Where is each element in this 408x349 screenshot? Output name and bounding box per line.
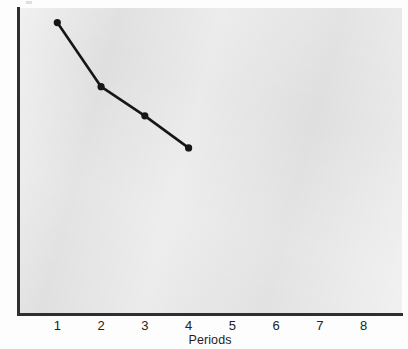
scan-artifact [26, 1, 32, 4]
figure-container: 12345678 Periods [0, 0, 408, 349]
x-tick-label-8: 8 [349, 318, 379, 334]
y-axis-spine [17, 7, 20, 316]
x-tick-label-1: 1 [42, 318, 72, 334]
x-tick-label-6: 6 [261, 318, 291, 334]
x-tick-label-5: 5 [217, 318, 247, 334]
x-axis-spine [17, 313, 403, 316]
x-axis-title: Periods [0, 333, 408, 347]
x-tick-label-3: 3 [130, 318, 160, 334]
x-tick-label-2: 2 [86, 318, 116, 334]
x-tick-label-7: 7 [305, 318, 335, 334]
x-tick-label-4: 4 [174, 318, 204, 334]
plot-area [19, 8, 402, 314]
x-axis-title-label: Periods [188, 333, 231, 347]
